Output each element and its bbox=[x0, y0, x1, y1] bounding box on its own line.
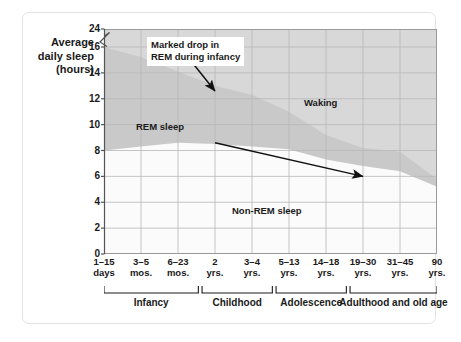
x-axis-tick-label-line-2: mos. bbox=[167, 267, 189, 278]
x-axis-tick-label-line-1: 3–5 bbox=[130, 256, 152, 267]
x-axis-tick-label-line-2: yrs. bbox=[387, 267, 413, 278]
annotation-callout: Marked drop in REM during infancy bbox=[147, 37, 244, 66]
y-axis-tick-label: 8 bbox=[94, 146, 100, 156]
x-axis-tick-label-line-1: 90 bbox=[429, 256, 446, 267]
y-axis-title-line-2: daily sleep bbox=[18, 50, 94, 64]
bracket-label: Infancy bbox=[134, 297, 169, 308]
life-stage-brackets: InfancyChildhoodAdolescenceAdulthood and… bbox=[104, 285, 437, 319]
bracket-label: Adulthood and old age bbox=[339, 297, 447, 308]
x-axis-tick-label-line-2: yrs. bbox=[429, 267, 446, 278]
bracket-label: Adolescence bbox=[280, 297, 342, 308]
x-axis-tick-label-line-2: yrs. bbox=[313, 267, 339, 278]
x-axis-tick-label-line-2: yrs. bbox=[244, 267, 261, 278]
x-axis-tick-label: 90yrs. bbox=[429, 256, 446, 278]
annotation-line-2: REM during infancy bbox=[151, 51, 240, 63]
annotation-line-1: Marked drop in bbox=[151, 39, 240, 51]
x-axis-tick-label-line-2: yrs. bbox=[207, 267, 224, 278]
x-axis-tick-label: 3–5mos. bbox=[130, 256, 152, 278]
x-axis-tick-label: 2yrs. bbox=[207, 256, 224, 278]
x-axis-tick-label-line-1: 1–15 bbox=[93, 256, 115, 267]
y-axis-tick-label: 10 bbox=[89, 120, 100, 130]
x-axis-tick-label-line-2: mos. bbox=[130, 267, 152, 278]
y-axis-title-line-3: (hours) bbox=[18, 63, 94, 77]
x-axis-tick-label: 5–13yrs. bbox=[278, 256, 299, 278]
x-axis-tick-label: 19–30yrs. bbox=[350, 256, 376, 278]
x-axis-tick-label-line-1: 6–23 bbox=[167, 256, 189, 267]
waking-label: Waking bbox=[304, 97, 337, 108]
x-axis-tick-label-line-1: 3–4 bbox=[244, 256, 261, 267]
x-axis-tick-label: 14–18yrs. bbox=[313, 256, 339, 278]
bracket-line bbox=[104, 286, 198, 293]
y-axis-tick-label: 6 bbox=[94, 171, 100, 181]
y-axis-tick-label: 24 bbox=[89, 24, 100, 34]
y-axis-tick-label: 14 bbox=[89, 68, 100, 78]
x-axis-tick-label-line-2: yrs. bbox=[350, 267, 376, 278]
y-axis-tick-label: 4 bbox=[94, 197, 100, 207]
y-axis-tick-label: 2 bbox=[94, 223, 100, 233]
sleep-across-lifespan-figure: Average daily sleep (hours) bbox=[0, 0, 461, 342]
x-axis-tick-label-line-1: 31–45 bbox=[387, 256, 413, 267]
x-axis-tick-label: 6–23mos. bbox=[167, 256, 189, 278]
y-axis-title-line-1: Average bbox=[18, 36, 94, 50]
x-axis-tick-label-line-2: days bbox=[93, 267, 115, 278]
bracket-line bbox=[350, 286, 437, 293]
y-axis-tick-label: 12 bbox=[89, 94, 100, 104]
non-rem-sleep-label: Non-REM sleep bbox=[232, 205, 302, 216]
x-axis-tick-label: 31–45yrs. bbox=[387, 256, 413, 278]
x-axis-tick-label: 1–15days bbox=[93, 256, 115, 278]
bracket-line bbox=[202, 286, 272, 293]
bracket-label: Childhood bbox=[212, 297, 261, 308]
x-axis-tick-label-line-1: 19–30 bbox=[350, 256, 376, 267]
plot-area: 024681012141624 1–15days3–5mos.6–23mos.2… bbox=[104, 29, 437, 254]
bracket-line bbox=[276, 286, 346, 293]
x-axis-tick-label: 3–4yrs. bbox=[244, 256, 261, 278]
x-axis-tick-label-line-1: 14–18 bbox=[313, 256, 339, 267]
x-axis-tick-label-line-1: 5–13 bbox=[278, 256, 299, 267]
x-axis-tick-label-line-1: 2 bbox=[207, 256, 224, 267]
y-axis-title: Average daily sleep (hours) bbox=[18, 36, 94, 77]
y-axis-tick-label: 16 bbox=[89, 42, 100, 52]
x-axis-tick-label-line-2: yrs. bbox=[278, 267, 299, 278]
rem-sleep-label: REM sleep bbox=[136, 121, 184, 132]
